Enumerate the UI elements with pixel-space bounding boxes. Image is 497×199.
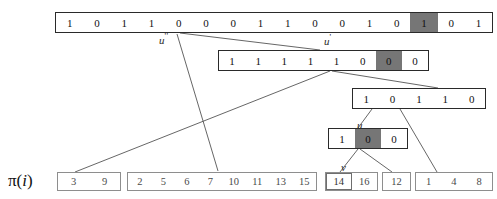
bit-cell-highlighted: 1 — [410, 13, 437, 32]
label-u-prime: u' — [324, 33, 332, 47]
leaf-value-highlighted: 14 — [326, 173, 352, 190]
bit-cell: 1 — [274, 13, 301, 32]
edge-uprime-to-leafgroup1 — [75, 71, 330, 172]
edge-root-to-uprime — [180, 33, 320, 50]
leaf-group-3: 14 16 — [325, 172, 378, 191]
pi-symbol: π — [8, 171, 17, 190]
pi-of-i-label: π(i) — [8, 172, 33, 189]
leaf-value: 8 — [467, 173, 492, 190]
bit-cell: 1 — [465, 13, 492, 32]
bit-cell: 0 — [329, 13, 356, 32]
u-bitvector-row: 1 0 0 — [328, 128, 408, 149]
leaf-value: 6 — [175, 173, 199, 190]
bit-cell: 0 — [192, 13, 219, 32]
leaf-value: 3 — [58, 173, 89, 190]
bit-cell: 1 — [111, 13, 138, 32]
label-u-base: u — [357, 119, 363, 131]
leaf-value: 5 — [152, 173, 176, 190]
bit-cell: 1 — [56, 13, 83, 32]
bit-cell: 0 — [459, 89, 485, 108]
leaf-value: 4 — [441, 173, 466, 190]
bit-cell: 1 — [245, 51, 271, 70]
bit-cell: 1 — [356, 13, 383, 32]
bit-cell: 0 — [165, 13, 192, 32]
bit-cell: 1 — [353, 89, 379, 108]
bit-cell: 0 — [301, 13, 328, 32]
leaf-value: 11 — [246, 173, 270, 190]
bit-cell: 1 — [297, 51, 323, 70]
bit-cell-highlighted: 0 — [355, 129, 381, 148]
u-prime-bitvector-row: 1 0 1 1 0 — [352, 88, 486, 109]
bit-cell: 0 — [381, 129, 407, 148]
leaf-value: 9 — [89, 173, 120, 190]
bit-cell: 0 — [220, 13, 247, 32]
leaf-group-1: 3 9 — [57, 172, 121, 191]
leaf-group-2: 2 5 6 7 10 11 13 15 — [127, 172, 317, 191]
leaf-value: 1 — [416, 173, 441, 190]
bit-cell: 0 — [350, 51, 376, 70]
bit-cell: 1 — [271, 51, 297, 70]
leaf-value: 12 — [383, 173, 410, 190]
edge-u-to-leafgroup4 — [360, 149, 392, 172]
u-double-prime-bitvector-row: 1 1 1 1 1 0 0 0 — [218, 50, 429, 71]
leaf-value: 10 — [222, 173, 246, 190]
leaf-value: 7 — [199, 173, 223, 190]
bit-cell: 1 — [138, 13, 165, 32]
root-bitvector-row: 1 0 1 1 0 0 0 1 1 0 0 1 0 1 0 1 — [55, 12, 493, 33]
pi-close-paren: ) — [27, 171, 33, 190]
bit-cell: 0 — [402, 51, 428, 70]
leaf-value: 2 — [128, 173, 152, 190]
bit-cell: 1 — [324, 51, 350, 70]
edge-root-to-leafgroup2 — [177, 34, 218, 171]
leaf-group-5: 1 4 8 — [415, 172, 493, 191]
label-v: v — [341, 159, 346, 173]
leaf-value: 16 — [352, 173, 377, 190]
bit-cell: 1 — [329, 129, 355, 148]
leaf-value: 15 — [293, 173, 317, 190]
leaf-value: 13 — [269, 173, 293, 190]
bit-cell: 0 — [379, 89, 405, 108]
bit-cell: 0 — [438, 13, 465, 32]
bit-cell: 1 — [406, 89, 432, 108]
bit-cell: 1 — [432, 89, 458, 108]
bit-cell: 0 — [83, 13, 110, 32]
label-u: u — [357, 117, 363, 131]
label-u-prime-primes: ' — [330, 32, 332, 42]
diagram-canvas: 1 0 1 1 0 0 0 1 1 0 0 1 0 1 0 1 1 1 1 1 … — [0, 0, 497, 199]
label-v-base: v — [341, 161, 346, 173]
bit-cell: 0 — [383, 13, 410, 32]
label-u-double-prime-primes: '' — [165, 31, 169, 41]
bit-cell: 1 — [247, 13, 274, 32]
leaf-group-4: 12 — [382, 172, 411, 191]
bit-cell: 1 — [219, 51, 245, 70]
edge-uprime-to-row3 — [332, 71, 438, 88]
label-u-double-prime: u'' — [159, 32, 169, 46]
bit-cell-highlighted: 0 — [376, 51, 402, 70]
